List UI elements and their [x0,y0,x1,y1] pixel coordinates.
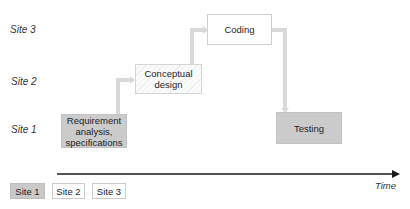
phase-testing-label: Testing [294,123,324,134]
legend-site-3-label: Site 3 [97,186,121,197]
legend-site-2: Site 2 [52,183,85,199]
phase-testing-box: Testing [276,112,342,144]
phase-conceptual-label: Conceptual design [143,68,195,90]
legend-site-1-label: Site 1 [15,186,39,197]
phase-coding-label: Coding [224,24,254,35]
time-axis-label: Time [375,180,396,191]
connector-requirement-to-conceptual [118,80,130,114]
connector-conceptual-to-coding [192,30,203,64]
phase-requirement-box: Requirement analysis, specifications [61,114,127,148]
time-axis-arrow-icon [392,170,400,178]
phase-coding-box: Coding [207,14,272,45]
phase-conceptual-box: Conceptual design [135,64,202,94]
phase-connectors [0,0,410,209]
legend-site-3: Site 3 [92,183,126,199]
connector-coding-to-testing [272,30,285,108]
phase-requirement-label: Requirement analysis, specifications [62,115,126,148]
legend-site-1: Site 1 [10,183,45,199]
legend-site-2-label: Site 2 [56,186,80,197]
